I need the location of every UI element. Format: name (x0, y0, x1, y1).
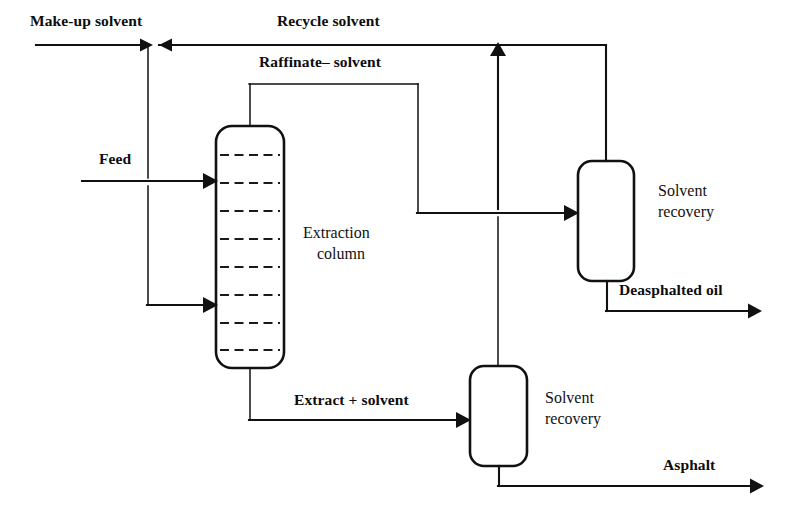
extraction-column-body (216, 126, 284, 368)
process-flow-diagram: Make-up solvent Recycle solvent Raffinat… (0, 0, 796, 525)
solvent-recovery-lower-body (470, 366, 527, 466)
solvent-recovery-upper-vessel (578, 161, 634, 281)
label-extract-solvent: Extract + solvent (294, 391, 409, 409)
label-asphalt: Asphalt (663, 456, 715, 474)
stream-raffinate-solvent (249, 84, 579, 221)
label-raffinate-solvent: Raffinate– solvent (259, 53, 381, 71)
solvent-recovery-upper-body (578, 161, 634, 281)
solvent-recovery-lower-vessel (470, 366, 527, 466)
solvent-recovery-lower-line2: recovery (545, 408, 655, 429)
asphalt-arrowhead (750, 479, 764, 494)
extraction-column-label-line1: Extraction (303, 222, 423, 243)
stream-feed (82, 173, 218, 189)
label-solvent-recovery-lower: Solvent recovery (545, 387, 655, 429)
stream-recovered-solvent-riser (490, 42, 506, 366)
recycle-solvent-arrowhead (159, 39, 172, 52)
solvent-recovery-upper-line2: recovery (658, 201, 768, 222)
label-extraction-column: Extraction column (303, 222, 423, 264)
deasphalted-oil-arrowhead (748, 304, 762, 319)
solvent-recovery-upper-line1: Solvent (658, 180, 768, 201)
label-solvent-recovery-upper: Solvent recovery (658, 180, 768, 222)
stream-make-up-solvent (36, 39, 153, 52)
label-deasphalted-oil: Deasphalted oil (619, 281, 723, 299)
label-recycle-solvent: Recycle solvent (277, 12, 380, 30)
solvent-recovery-lower-line1: Solvent (545, 387, 655, 408)
label-feed: Feed (99, 150, 131, 168)
extraction-column-label-line2: column (303, 243, 423, 264)
make-up-solvent-arrowhead (140, 39, 153, 52)
extraction-column-vessel (216, 126, 284, 368)
label-make-up-solvent: Make-up solvent (30, 12, 142, 30)
stream-asphalt (498, 466, 764, 494)
